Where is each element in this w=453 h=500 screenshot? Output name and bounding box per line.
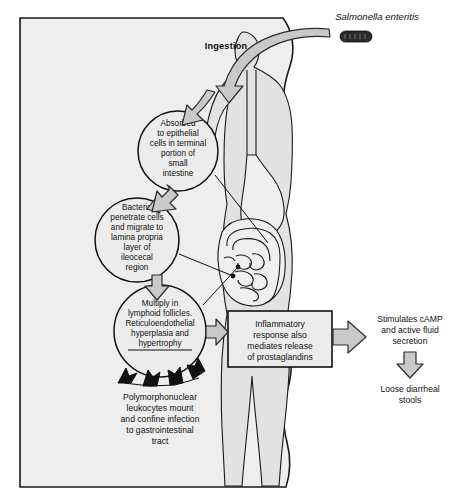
penetrate-line-2: penetrate cells — [110, 213, 163, 222]
ingestion-label: Ingestion — [205, 41, 248, 51]
penetrate-line-7: region — [126, 263, 149, 272]
absorbed-line-3: cells in terminal — [150, 139, 207, 148]
leukocytes-line-3: and confine infection — [121, 414, 200, 424]
absorbed-line-5: small — [168, 159, 187, 168]
penetrate-line-4: lamina propria — [111, 233, 163, 242]
stools-line-1: Loose diarrheal — [380, 384, 439, 394]
arrow-to-camp — [333, 321, 366, 353]
absorbed-line-6: intestine — [163, 169, 194, 178]
stools-line-2: stools — [399, 395, 421, 405]
intestine-icon — [218, 219, 285, 306]
leukocytes-line-2: leukocytes mount — [127, 403, 194, 413]
absorbed-line-2: to epithelial — [157, 129, 199, 138]
bacterium-rod-icon — [340, 31, 372, 42]
camp-line-2: and active fluid — [381, 325, 439, 335]
penetrate-line-6: ileocecal — [121, 253, 153, 262]
absorbed-line-4: portion of — [161, 149, 196, 158]
penetrate-line-5: layer of — [124, 243, 152, 252]
multiply-line-1: Multiply in — [142, 299, 179, 308]
inflammatory-line-1: Inflammatory — [255, 319, 305, 329]
camp-line-1: Stimulates cAMP — [377, 314, 443, 324]
species-label: Salmonella enteritis — [335, 11, 419, 22]
multiply-line-3: Reticuloendothelial — [125, 319, 194, 328]
leukocytes-line-5: tract — [152, 436, 169, 446]
penetrate-line-3: and migrate to — [111, 223, 164, 232]
multiply-line-4: hyperplasia and — [131, 329, 189, 338]
leukocytes-line-4: to gastrointestinal — [126, 425, 193, 435]
inflammatory-line-2: response also — [253, 330, 307, 340]
figure-canvas: Ingestion Salmonella enteritis Absorbed … — [0, 0, 453, 500]
leukocytes-line-1: Polymorphonuclear — [123, 392, 197, 402]
camp-line-3: secretion — [393, 336, 428, 346]
inflammatory-line-4: of prostaglandins — [247, 352, 312, 362]
inflammatory-line-3: mediates release — [247, 341, 313, 351]
multiply-line-2: lymphoid follicles. — [128, 309, 192, 318]
arrow-to-stools — [397, 352, 423, 378]
multiply-line-5: hypertrophy — [138, 339, 182, 348]
